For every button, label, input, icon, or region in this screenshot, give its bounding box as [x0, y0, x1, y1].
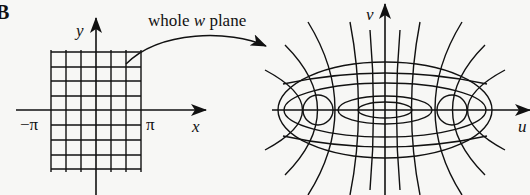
- tick-pi: π: [146, 116, 155, 133]
- y-axis-label: y: [76, 22, 84, 39]
- x-axis-label: x: [192, 118, 200, 135]
- tick-neg-pi: −π: [20, 116, 38, 133]
- mapping-label-variable: w: [194, 11, 205, 30]
- mapping-arrow: [126, 36, 266, 64]
- v-axis-label: v: [366, 6, 374, 23]
- mapping-label-suffix: plane: [205, 11, 246, 30]
- mapping-label-prefix: whole: [148, 11, 194, 30]
- u-axis-label: u: [518, 118, 527, 135]
- mapping-label: whole w plane: [148, 12, 246, 29]
